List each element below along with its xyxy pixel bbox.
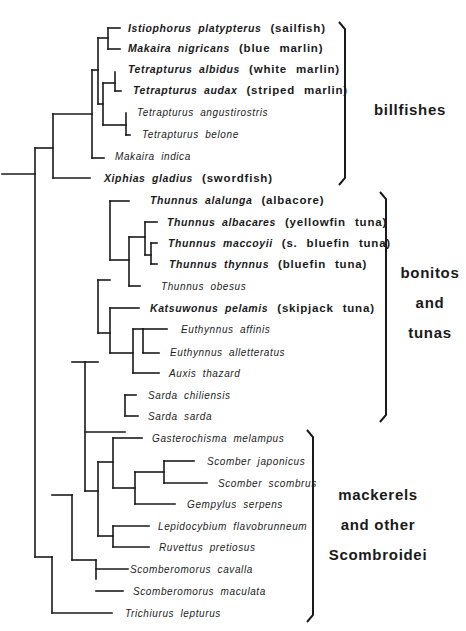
taxon-scomberomorus-cavalla: Scomberomorus cavalla — [130, 563, 253, 576]
species-name: Xiphias gladius — [104, 172, 193, 184]
taxon-tetrapturus-belone: Tetrapturus belone — [142, 128, 239, 141]
species-name: Scomber japonicus — [207, 456, 305, 467]
group-brace-mackerels-and-other-scombroidei — [307, 430, 313, 622]
taxon-thunnus-thynnus: Thunnus thynnus(bluefin tuna) — [169, 258, 367, 270]
species-name: Istiophorus platypterus — [128, 22, 261, 34]
taxon-trichiurus: Trichiurus lepturus — [125, 607, 221, 620]
taxon-sarda-chiliensis: Sarda chiliensis — [148, 389, 231, 402]
species-name: Euthynnus affinis — [181, 324, 270, 335]
group-label-mackerels-and-other-scombroidei: mackerelsand otherScombroidei — [318, 480, 438, 570]
taxon-katsuwonus: Katsuwonus pelamis(skipjack tuna) — [150, 302, 375, 314]
taxon-gasterochisma: Gasterochisma melampus — [152, 432, 284, 445]
species-name: Ruvettus pretiosus — [159, 542, 256, 553]
group-label-line: tunas — [395, 318, 465, 348]
common-name: (yellowfin tuna) — [285, 216, 387, 228]
taxon-euthynnus-alletteratus: Euthynnus alletteratus — [170, 346, 285, 359]
taxon-thunnus-alalunga: Thunnus alalunga(albacore) — [150, 194, 324, 206]
common-name: (bluefin tuna) — [278, 258, 367, 270]
species-name: Trichiurus lepturus — [125, 608, 221, 619]
species-name: Makaira indica — [115, 151, 191, 162]
group-label-line: and other — [318, 510, 438, 540]
taxon-xiphias: Xiphias gladius(swordfish) — [104, 172, 273, 184]
species-name: Gempylus serpens — [187, 499, 283, 510]
common-name: (striped marlin) — [246, 84, 348, 96]
group-label-line: billfishes — [360, 95, 460, 125]
taxon-makaira-nigricans: Makaira nigricans(blue marlin) — [128, 42, 323, 54]
taxon-tetrapturus-albidus: Tetrapturus albidus(white marlin) — [128, 63, 340, 75]
taxon-lepidocybium: Lepidocybium flavobrunneum — [158, 520, 307, 533]
taxon-scomber-scombrus: Scomber scombrus — [218, 477, 317, 490]
group-label-line: and — [395, 288, 465, 318]
common-name: (sailfish) — [270, 22, 325, 34]
taxon-tetrapturus-audax: Tetrapturus audax(striped marlin) — [133, 84, 348, 96]
species-name: Makaira nigricans — [128, 42, 230, 54]
group-label-bonitos-and-tunas: bonitosandtunas — [395, 258, 465, 348]
species-name: Auxis thazard — [169, 368, 240, 379]
species-name: Scomberomorus cavalla — [130, 564, 253, 575]
species-name: Tetrapturus audax — [133, 84, 237, 96]
group-label-line: mackerels — [318, 480, 438, 510]
species-name: Katsuwonus pelamis — [150, 302, 268, 314]
species-name: Tetrapturus albidus — [128, 63, 240, 75]
common-name: (swordfish) — [202, 172, 273, 184]
species-name: Scomber scombrus — [218, 478, 317, 489]
taxon-thunnus-obesus: Thunnus obesus — [161, 280, 246, 293]
species-name: Thunnus obesus — [161, 281, 246, 292]
species-name: Sarda sarda — [148, 411, 212, 422]
species-name: Thunnus alalunga — [150, 194, 252, 206]
species-name: Tetrapturus belone — [142, 129, 239, 140]
species-name: Lepidocybium flavobrunneum — [158, 521, 307, 532]
taxon-euthynnus-affinis: Euthynnus affinis — [181, 323, 270, 336]
taxon-makaira-indica: Makaira indica — [115, 150, 191, 163]
taxon-gempylus: Gempylus serpens — [187, 498, 283, 511]
common-name: (blue marlin) — [239, 42, 323, 54]
taxon-thunnus-maccoyii: Thunnus maccoyii(s. bluefin tuna) — [168, 237, 391, 249]
species-name: Euthynnus alletteratus — [170, 347, 285, 358]
taxon-scomberomorus-maculata: Scomberomorus maculata — [133, 585, 266, 598]
common-name: (skipjack tuna) — [277, 302, 375, 314]
species-name: Thunnus thynnus — [169, 258, 269, 270]
taxon-scomber-japonicus: Scomber japonicus — [207, 455, 305, 468]
taxon-istiophorus: Istiophorus platypterus(sailfish) — [128, 22, 326, 34]
taxon-auxis: Auxis thazard — [169, 367, 240, 380]
group-label-line: Scombroidei — [318, 540, 438, 570]
group-brace-billfishes — [339, 22, 345, 185]
taxon-ruvettus: Ruvettus pretiosus — [159, 541, 256, 554]
species-name: Thunnus albacares — [167, 216, 276, 228]
species-name: Thunnus maccoyii — [168, 237, 273, 249]
group-label-line: bonitos — [395, 258, 465, 288]
taxon-sarda-sarda: Sarda sarda — [148, 410, 212, 423]
taxon-thunnus-albacares: Thunnus albacares(yellowfin tuna) — [167, 216, 387, 228]
taxon-tetrapturus-angustirostris: Tetrapturus angustirostris — [137, 106, 268, 119]
common-name: (s. bluefin tuna) — [282, 237, 391, 249]
species-name: Sarda chiliensis — [148, 390, 231, 401]
common-name: (white marlin) — [249, 63, 340, 75]
common-name: (albacore) — [261, 194, 324, 206]
species-name: Tetrapturus angustirostris — [137, 107, 268, 118]
species-name: Scomberomorus maculata — [133, 586, 266, 597]
species-name: Gasterochisma melampus — [152, 433, 284, 444]
group-label-billfishes: billfishes — [360, 95, 460, 125]
